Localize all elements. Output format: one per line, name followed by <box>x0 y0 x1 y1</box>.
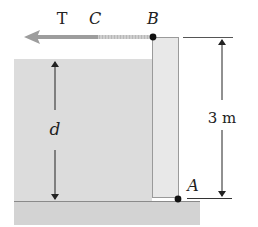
rope-BC <box>97 35 153 39</box>
label-C: C <box>89 9 101 28</box>
hinge-B-dot <box>150 34 157 41</box>
tension-arrow-shaft <box>36 35 98 39</box>
gate <box>153 38 179 198</box>
label-B: B <box>146 9 159 28</box>
diagram-canvas: T C B A d 3 m <box>0 0 258 227</box>
label-A: A <box>185 176 199 195</box>
water-region <box>14 59 152 202</box>
label-gate-height: 3 m <box>208 109 237 127</box>
ground <box>14 201 200 225</box>
label-d: d <box>50 119 61 139</box>
hinge-A-dot <box>175 196 182 203</box>
label-tension: T <box>57 9 68 28</box>
